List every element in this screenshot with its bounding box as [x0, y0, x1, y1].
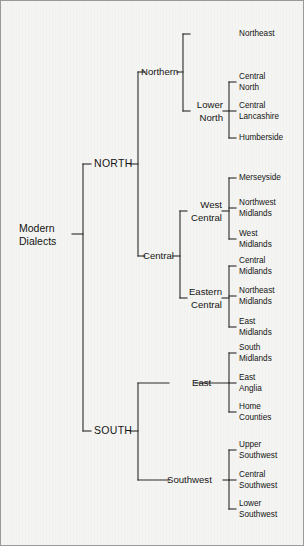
leaf-home-counties-line2: Counties: [239, 413, 271, 422]
leaf-central-midlands-line1: Central: [239, 256, 266, 265]
leaf-east-midlands-line2: Midlands: [239, 328, 272, 337]
leaf-east-anglia-line2: Anglia: [239, 384, 262, 393]
node-east[interactable]: East: [192, 377, 212, 388]
leaf-northeast-midlands-line1: Northeast: [239, 286, 275, 295]
leaf-central-north-line2: North: [239, 83, 259, 92]
leaf-lower-southwest-line2: Southwest: [239, 510, 278, 519]
node-central[interactable]: Central: [143, 250, 174, 261]
node-northern[interactable]: Northern: [141, 66, 178, 77]
leaf-central-north-line1: Central: [239, 72, 266, 81]
dialect-tree-figure: Modern Dialects NORTH SOUTH Northern Cen…: [0, 0, 304, 546]
leaf-west-midlands-line1: West: [239, 229, 258, 238]
leaf-west-midlands[interactable]: West Midlands: [239, 229, 272, 249]
leaf-central-midlands[interactable]: Central Midlands: [239, 256, 272, 276]
leaf-northeast[interactable]: Northeast: [239, 29, 275, 38]
leaf-central-lancashire-line1: Central: [239, 101, 266, 110]
node-eastern-central-line1: Eastern: [189, 286, 222, 297]
node-eastern-central-line2: Central: [191, 299, 222, 310]
node-west-central-line2: Central: [191, 212, 222, 223]
tree-diagram-svg: Modern Dialects NORTH SOUTH Northern Cen…: [1, 1, 304, 546]
leaf-upper-southwest[interactable]: Upper Southwest: [239, 440, 278, 460]
node-lower-north[interactable]: Lower North: [197, 99, 224, 123]
node-lower-north-line2: North: [200, 112, 223, 123]
leaf-central-midlands-line2: Midlands: [239, 267, 272, 276]
leaf-central-southwest[interactable]: Central Southwest: [239, 470, 278, 490]
leaf-northwest-midlands[interactable]: Northwest Midlands: [239, 198, 277, 218]
node-west-central-line1: West: [200, 199, 222, 210]
leaf-lower-southwest[interactable]: Lower Southwest: [239, 499, 278, 519]
node-south[interactable]: SOUTH: [94, 424, 132, 436]
leaf-upper-southwest-line2: Southwest: [239, 451, 278, 460]
leaf-northwest-midlands-line1: Northwest: [239, 198, 277, 207]
leaf-central-southwest-line1: Central: [239, 470, 266, 479]
leaf-humberside[interactable]: Humberside: [239, 133, 284, 142]
node-modern-dialects-line1: Modern: [19, 222, 55, 234]
leaf-central-lancashire-line2: Lancashire: [239, 112, 280, 121]
leaf-merseyside[interactable]: Merseyside: [239, 173, 281, 182]
leaf-central-lancashire[interactable]: Central Lancashire: [239, 101, 280, 121]
leaf-east-midlands-line1: East: [239, 317, 256, 326]
leaf-home-counties[interactable]: Home Counties: [239, 402, 271, 422]
node-west-central[interactable]: West Central: [191, 199, 222, 223]
leaf-northeast-midlands[interactable]: Northeast Midlands: [239, 286, 275, 306]
leaf-east-anglia[interactable]: East Anglia: [239, 373, 262, 393]
leaf-east-anglia-line1: East: [239, 373, 256, 382]
node-north[interactable]: NORTH: [94, 157, 133, 169]
leaf-lower-southwest-line1: Lower: [239, 499, 262, 508]
leaf-upper-southwest-line1: Upper: [239, 440, 262, 449]
node-modern-dialects[interactable]: Modern Dialects: [19, 222, 56, 247]
leaf-south-midlands[interactable]: South Midlands: [239, 343, 272, 363]
node-modern-dialects-line2: Dialects: [19, 235, 56, 247]
leaf-east-midlands[interactable]: East Midlands: [239, 317, 272, 337]
leaf-west-midlands-line2: Midlands: [239, 240, 272, 249]
leaf-home-counties-line1: Home: [239, 402, 261, 411]
node-eastern-central[interactable]: Eastern Central: [189, 286, 222, 310]
leaf-central-north[interactable]: Central North: [239, 72, 266, 92]
node-lower-north-line1: Lower: [197, 99, 224, 110]
leaf-central-southwest-line2: Southwest: [239, 481, 278, 490]
leaf-south-midlands-line1: South: [239, 343, 261, 352]
leaf-northwest-midlands-line2: Midlands: [239, 209, 272, 218]
leaf-south-midlands-line2: Midlands: [239, 354, 272, 363]
leaf-northeast-midlands-line2: Midlands: [239, 297, 272, 306]
node-southwest[interactable]: Southwest: [167, 474, 212, 485]
